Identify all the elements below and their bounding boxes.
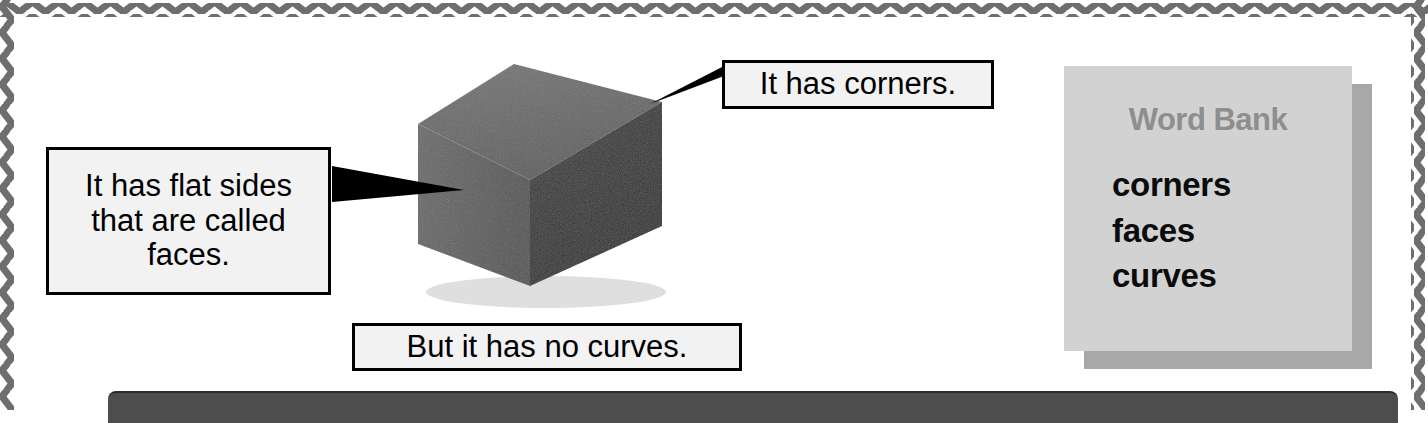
word-bank-panel: Word Bank corners faces curves xyxy=(1064,66,1352,351)
callout-corners-text: It has corners. xyxy=(760,67,956,102)
callout-curves: But it has no curves. xyxy=(352,323,742,371)
word-bank-list: corners faces curves xyxy=(1112,162,1342,299)
word-bank-item: corners xyxy=(1112,162,1342,208)
callout-corners: It has corners. xyxy=(722,60,994,109)
word-bank-title: Word Bank xyxy=(1064,102,1352,138)
bottom-bar xyxy=(108,391,1398,423)
callout-curves-text: But it has no curves. xyxy=(407,330,688,365)
word-bank-item: curves xyxy=(1112,253,1342,299)
cube-illustration xyxy=(396,58,676,318)
callout-faces: It has flat sides that are called faces. xyxy=(46,147,331,295)
word-bank-item: faces xyxy=(1112,208,1342,254)
callout-faces-text: It has flat sides that are called faces. xyxy=(85,169,292,273)
